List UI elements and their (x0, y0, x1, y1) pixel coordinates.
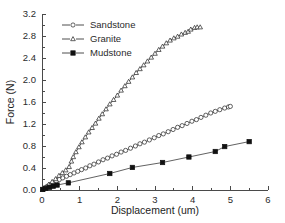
legend-label-mudstone: Mudstone (90, 47, 132, 58)
y-tick-label: 0.0 (23, 184, 36, 195)
data-point (204, 113, 208, 117)
y-tick-label: 2.8 (23, 30, 36, 41)
data-point (110, 154, 114, 158)
data-point (222, 144, 226, 148)
data-point (66, 181, 70, 185)
x-tick-label: 6 (265, 194, 270, 205)
data-point (88, 164, 92, 168)
data-point (119, 150, 123, 154)
data-point (67, 164, 72, 168)
y-tick-label: 3.2 (23, 8, 36, 19)
data-point (194, 118, 198, 122)
data-point (209, 111, 213, 115)
data-point (114, 152, 118, 156)
x-axis-title: Displacement (um) (111, 204, 199, 216)
data-point (187, 155, 191, 159)
data-point (128, 146, 132, 150)
y-axis-title: Force (N) (4, 80, 16, 124)
data-point (247, 139, 251, 143)
data-point (92, 162, 96, 166)
data-point (55, 183, 59, 187)
data-point (133, 144, 137, 148)
series-sandstone (41, 104, 233, 191)
y-tick-label: 2.0 (23, 74, 36, 85)
legend-label-granite: Granite (90, 33, 121, 44)
data-point (160, 160, 164, 164)
data-point (142, 140, 146, 144)
data-point (218, 108, 222, 112)
data-point (96, 160, 100, 164)
data-point (157, 133, 161, 137)
y-tick-label: 2.4 (23, 52, 36, 63)
legend-marker-granite (71, 37, 76, 41)
data-point (166, 130, 170, 134)
data-point (161, 132, 165, 136)
data-point (213, 149, 217, 153)
y-tick-label: 0.8 (23, 140, 36, 151)
data-point (176, 125, 180, 129)
data-point (79, 168, 83, 172)
x-tick-label: 1 (77, 194, 82, 205)
data-point (152, 136, 156, 140)
data-point (190, 119, 194, 123)
data-point (124, 148, 128, 152)
legend-marker-sandstone (71, 23, 75, 27)
chart-canvas: 0.00.40.81.21.62.02.42.83.20123456 Sands… (0, 0, 285, 223)
data-point (130, 165, 134, 169)
data-point (138, 142, 142, 146)
data-point (101, 158, 105, 162)
data-point (77, 145, 82, 149)
x-tick-label: 0 (39, 194, 44, 205)
data-point (108, 171, 112, 175)
data-point (71, 155, 76, 159)
data-point (147, 138, 151, 142)
data-point (74, 150, 79, 154)
y-tick-label: 1.2 (23, 118, 36, 129)
series-mudstone (41, 139, 252, 191)
force-displacement-chart: 0.00.40.81.21.62.02.42.83.20123456 Sands… (0, 0, 285, 223)
x-tick-label: 5 (228, 194, 233, 205)
data-series (40, 25, 251, 192)
data-point (199, 115, 203, 119)
y-tick-label: 0.4 (23, 162, 36, 173)
legend-label-sandstone: Sandstone (90, 19, 135, 30)
y-tick-label: 1.6 (23, 96, 36, 107)
data-point (105, 156, 109, 160)
data-point (185, 121, 189, 125)
data-point (84, 166, 88, 170)
data-point (171, 127, 175, 131)
data-point (69, 159, 74, 163)
chart-legend: SandstoneGraniteMudstone (62, 19, 135, 58)
data-point (213, 109, 217, 113)
data-point (228, 104, 232, 108)
data-point (180, 124, 184, 128)
legend-marker-mudstone (71, 51, 75, 55)
